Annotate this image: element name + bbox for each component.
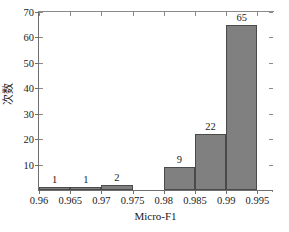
y-axis-title: 次数	[0, 74, 15, 114]
x-tick-label: 0.96	[30, 195, 48, 206]
histogram-figure: 次数 11292265 10203040506070 0.960.9650.97…	[0, 0, 289, 232]
x-tick-mark	[226, 190, 227, 194]
y-tick-mark-right	[269, 165, 273, 166]
bar-value-label: 22	[195, 121, 226, 132]
y-tick-mark-right	[269, 139, 273, 140]
y-tick-mark-inner	[39, 114, 43, 115]
y-tick-mark-inner	[39, 37, 43, 38]
bar-value-label: 65	[226, 12, 257, 23]
y-tick-label: 50	[24, 57, 35, 68]
histogram-bar	[70, 187, 101, 190]
plot-area: 11292265 10203040506070 0.960.9650.970.9…	[38, 12, 273, 191]
x-tick-mark	[257, 190, 258, 194]
x-tick-mark-top	[133, 12, 134, 16]
y-tick-label: 70	[24, 7, 35, 18]
x-tick-label: 0.98	[155, 195, 173, 206]
x-tick-mark	[39, 190, 40, 194]
x-tick-label: 0.965	[58, 195, 82, 206]
y-tick-label: 40	[24, 83, 35, 94]
y-tick-mark-inner	[39, 165, 43, 166]
x-tick-label: 0.97	[92, 195, 110, 206]
x-tick-mark-top	[195, 12, 196, 16]
y-tick-mark-right	[269, 88, 273, 89]
x-tick-label: 0.99	[217, 195, 235, 206]
x-tick-mark	[133, 190, 134, 194]
x-tick-mark-top	[226, 12, 227, 16]
x-tick-mark-top	[101, 12, 102, 16]
x-tick-mark	[101, 190, 102, 194]
y-tick-mark-inner	[39, 63, 43, 64]
y-tick-mark-right	[269, 114, 273, 115]
x-tick-label: 0.995	[246, 195, 270, 206]
histogram-bar	[164, 167, 195, 190]
y-tick-label: 60	[24, 32, 35, 43]
y-tick-mark-right	[269, 37, 273, 38]
x-tick-mark	[164, 190, 165, 194]
bar-value-label: 1	[39, 174, 70, 185]
y-tick-mark-right	[269, 12, 273, 13]
histogram-bar	[226, 25, 257, 190]
y-tick-label: 30	[24, 108, 35, 119]
histogram-bar	[195, 134, 226, 190]
x-tick-label: 0.985	[183, 195, 207, 206]
bar-value-label: 2	[101, 172, 132, 183]
y-tick-mark-inner	[39, 88, 43, 89]
y-tick-label: 10	[24, 159, 35, 170]
x-tick-mark-top	[164, 12, 165, 16]
x-tick-mark-top	[39, 12, 40, 16]
bar-value-label: 1	[70, 174, 101, 185]
x-tick-mark	[195, 190, 196, 194]
x-tick-mark	[70, 190, 71, 194]
x-tick-label: 0.975	[121, 195, 145, 206]
bar-value-label: 9	[164, 154, 195, 165]
x-axis-title: Micro-F1	[38, 210, 273, 222]
y-tick-mark-inner	[39, 139, 43, 140]
x-tick-mark-top	[257, 12, 258, 16]
x-tick-mark-top	[70, 12, 71, 16]
y-tick-mark-right	[269, 63, 273, 64]
histogram-bar	[39, 187, 70, 190]
histogram-bar	[101, 185, 132, 190]
y-tick-label: 20	[24, 134, 35, 145]
